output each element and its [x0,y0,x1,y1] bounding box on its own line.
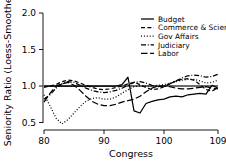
x-tick-label: 100 [155,136,172,146]
x-tick-label: 90 [98,136,110,146]
x-tick-label: 80 [38,136,50,146]
y-tick-label: 2.0 [22,8,37,18]
plot-canvas: 0.51.01.52.0 8090100109 Congress Seniori… [0,0,226,161]
y-tick-label: 1.5 [22,45,36,55]
x-tick-label: 109 [209,136,226,146]
y-tick-label: 1.0 [22,81,37,91]
legend-label-labor: Labor [158,49,180,58]
y-axis-title: Seniority Ratio (Loess-Smoother) [2,0,13,146]
x-axis-title: Congress [109,148,153,159]
y-tick-label: 0.5 [22,118,36,128]
seniority-ratio-chart: 0.51.01.52.0 8090100109 Congress Seniori… [0,0,226,161]
